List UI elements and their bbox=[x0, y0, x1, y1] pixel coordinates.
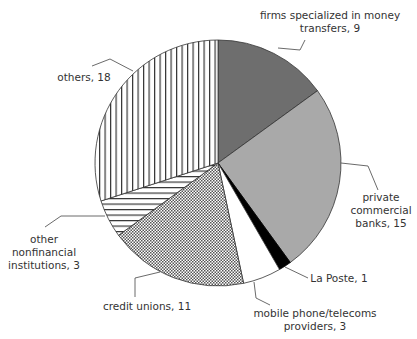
label-line: mobile phone/telecoms bbox=[240, 307, 390, 320]
label-line: providers, 3 bbox=[240, 320, 390, 333]
label-line: other bbox=[4, 233, 84, 246]
label-line: credit unions, 11 bbox=[92, 300, 202, 313]
label-line: others, 18 bbox=[48, 71, 120, 84]
label-line: La Poste, 1 bbox=[304, 272, 374, 285]
label-la-poste: La Poste, 1 bbox=[304, 272, 374, 285]
label-private-commercial-banks: private commercial banks, 15 bbox=[348, 191, 414, 230]
leader-credit-unions bbox=[135, 272, 160, 297]
label-line: institutions, 3 bbox=[4, 259, 84, 272]
label-money-transfers: firms specialized in money transfers, 9 bbox=[240, 9, 417, 35]
label-others: others, 18 bbox=[48, 71, 120, 84]
leader-money-transfers bbox=[278, 40, 305, 50]
label-line: commercial bbox=[348, 204, 414, 217]
label-credit-unions: credit unions, 11 bbox=[92, 300, 202, 313]
label-line: banks, 15 bbox=[348, 217, 414, 230]
leader-mobile bbox=[254, 282, 270, 305]
label-other-nonfinancial: other nonfinancial institutions, 3 bbox=[4, 233, 84, 272]
label-line: firms specialized in money bbox=[240, 9, 417, 22]
label-mobile-telecoms: mobile phone/telecoms providers, 3 bbox=[240, 307, 390, 333]
label-line: transfers, 9 bbox=[240, 22, 417, 35]
leader-other-nonfinancial bbox=[45, 216, 105, 227]
label-line: private bbox=[348, 191, 414, 204]
pie-chart bbox=[0, 0, 417, 339]
leader-banks bbox=[341, 163, 378, 190]
leader-others bbox=[92, 59, 133, 71]
label-line: nonfinancial bbox=[4, 246, 84, 259]
